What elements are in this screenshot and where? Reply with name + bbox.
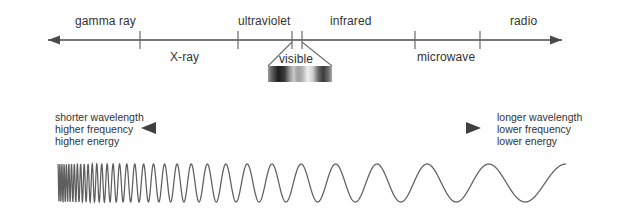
band-label-xray: X-ray <box>170 50 199 64</box>
property-right-line-2: lower frequency <box>497 124 582 136</box>
property-block-right: longer wavelength lower frequency lower … <box>497 112 582 147</box>
band-label-gamma-ray: gamma ray <box>75 14 136 28</box>
axis-arrow-right <box>550 35 562 44</box>
axis-arrow-left <box>48 35 60 44</box>
visible-spectrum-bar <box>268 66 332 82</box>
band-label-visible: visible <box>279 52 313 66</box>
spectrum-axis-layer <box>0 0 623 212</box>
electromagnetic-spectrum-diagram: gamma ray ultraviolet infrared radio X-r… <box>0 0 623 212</box>
property-left-line-2: higher frequency <box>55 124 144 136</box>
property-arrow-right-head <box>466 122 481 134</box>
band-label-radio: radio <box>510 14 537 28</box>
chirped-waveform <box>58 164 566 202</box>
property-left-line-3: higher energy <box>55 136 144 148</box>
property-right-line-3: lower energy <box>497 136 582 148</box>
band-label-infrared: infrared <box>330 14 372 28</box>
axis-line <box>48 35 562 44</box>
property-arrow <box>141 122 481 134</box>
band-label-ultraviolet: ultraviolet <box>238 14 290 28</box>
band-label-microwave: microwave <box>417 50 475 64</box>
property-block-left: shorter wavelength higher frequency high… <box>55 112 144 147</box>
